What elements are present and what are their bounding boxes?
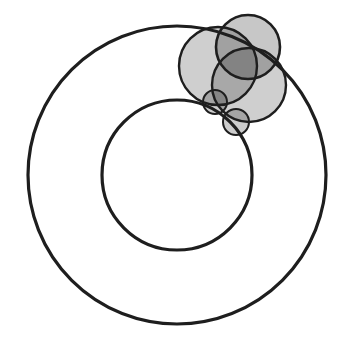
background: [0, 0, 351, 344]
circle-inversion-diagram: [0, 0, 351, 344]
